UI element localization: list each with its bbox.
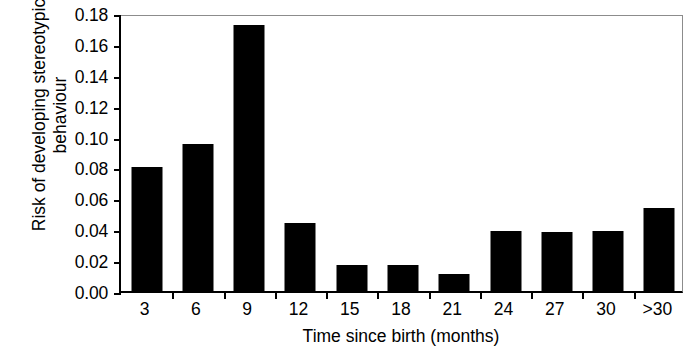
x-axis-tick-mark [377, 291, 379, 299]
x-axis-tick-label: 3 [140, 299, 150, 320]
y-axis-tick-label: 0.14 [54, 66, 108, 87]
bar-cell [224, 16, 275, 291]
bar-cell [634, 16, 685, 291]
y-axis-tick-label: 0.02 [54, 252, 108, 273]
x-axis-tick-mark [326, 291, 328, 299]
y-axis-tick-label: 0.00 [54, 283, 108, 304]
plot-area [119, 15, 683, 293]
x-axis-tick-labels: 36912151821242730>30 [119, 299, 683, 325]
bar [285, 223, 316, 291]
x-axis-tick-label: 6 [191, 299, 201, 320]
bar-cell [172, 16, 223, 291]
y-axis-tick-mark [114, 15, 121, 17]
x-axis-tick-label: 15 [340, 299, 359, 320]
x-axis-tick-mark [224, 291, 226, 299]
y-axis-tick-labels: 0.000.020.040.060.080.100.120.140.160.18 [46, 0, 108, 353]
bar-cell [326, 16, 377, 291]
x-axis-tick-mark [582, 291, 584, 299]
bar [336, 265, 367, 291]
bar [541, 232, 572, 291]
bar-series [121, 16, 682, 291]
bar-cell [582, 16, 633, 291]
y-axis-tick-mark [114, 200, 121, 202]
x-axis-tick-mark [531, 291, 533, 299]
bar [439, 274, 470, 291]
bar [387, 265, 418, 291]
bar [593, 231, 624, 291]
x-axis-tick-label: >30 [643, 299, 673, 320]
bar-chart-figure: Risk of developing stereotypic behaviour… [0, 0, 688, 353]
x-axis-tick-mark [275, 291, 277, 299]
bar-cell [480, 16, 531, 291]
y-axis-tick-mark [114, 169, 121, 171]
bar-cell [377, 16, 428, 291]
y-axis-tick-label: 0.12 [54, 97, 108, 118]
y-axis-tick-label: 0.16 [54, 35, 108, 56]
x-axis-tick-label: 24 [494, 299, 513, 320]
y-axis-tick-mark [114, 293, 121, 295]
bar [131, 167, 162, 291]
y-axis-tick-label: 0.08 [54, 159, 108, 180]
x-axis-tick-mark [172, 291, 174, 299]
y-axis-tick-mark [114, 46, 121, 48]
x-axis-tick-mark [480, 291, 482, 299]
y-axis-tick-label: 0.10 [54, 128, 108, 149]
x-axis-tick-mark [429, 291, 431, 299]
y-axis-tick-mark [114, 262, 121, 264]
y-axis-tick-label: 0.06 [54, 190, 108, 211]
x-axis-tick-mark [634, 291, 636, 299]
x-axis-tick-label: 30 [596, 299, 615, 320]
y-axis-tick-mark [114, 77, 121, 79]
bar-cell [531, 16, 582, 291]
bar-cell [429, 16, 480, 291]
bar [182, 144, 213, 291]
y-axis-tick-mark [114, 108, 121, 110]
y-axis-tick-mark [114, 231, 121, 233]
x-axis-tick-label: 12 [289, 299, 308, 320]
bar [644, 208, 675, 291]
x-axis-tick-label: 9 [242, 299, 252, 320]
x-axis-tick-label: 18 [391, 299, 410, 320]
x-axis-tick-label: 27 [545, 299, 564, 320]
y-axis-tick-label: 0.04 [54, 221, 108, 242]
bar-cell [275, 16, 326, 291]
bar [490, 231, 521, 291]
bar-cell [121, 16, 172, 291]
y-axis-tick-label: 0.18 [54, 5, 108, 26]
x-axis-tick-label: 21 [443, 299, 462, 320]
bar [234, 25, 265, 291]
y-axis-tick-mark [114, 139, 121, 141]
x-axis-title: Time since birth (months) [119, 326, 683, 347]
